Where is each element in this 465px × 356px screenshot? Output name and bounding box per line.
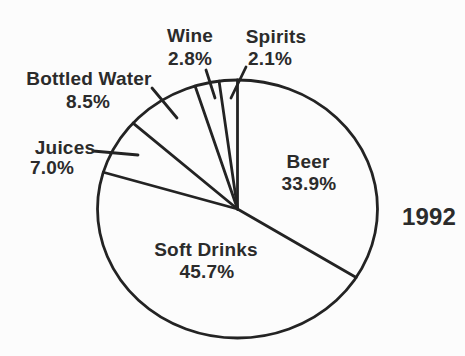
slice-label-bottled-water: Bottled Water bbox=[26, 69, 151, 88]
slice-label-soft-drinks: Soft Drinks bbox=[154, 240, 258, 259]
leader-line-juices bbox=[93, 151, 138, 155]
slice-label-spirits: Spirits bbox=[246, 27, 307, 46]
slice-label-beer: Beer bbox=[286, 152, 329, 171]
slice-boundary-2 bbox=[103, 172, 237, 209]
slice-label-juices: Juices bbox=[35, 138, 95, 157]
slice-value-spirits: 2.1% bbox=[248, 49, 292, 68]
slice-label-wine: Wine bbox=[167, 26, 213, 45]
pie-chart bbox=[0, 0, 465, 356]
slice-value-beer: 33.9% bbox=[282, 174, 337, 193]
slice-value-soft-drinks: 45.7% bbox=[180, 262, 235, 281]
slice-boundary-5 bbox=[219, 81, 237, 209]
slice-value-juices: 7.0% bbox=[30, 158, 74, 177]
year-label: 1992 bbox=[402, 205, 456, 229]
slice-value-bottled-water: 8.5% bbox=[66, 92, 110, 111]
pie-chart-figure: Beer 33.9% Soft Drinks 45.7% Juices 7.0%… bbox=[0, 0, 465, 356]
slice-value-wine: 2.8% bbox=[168, 49, 212, 68]
